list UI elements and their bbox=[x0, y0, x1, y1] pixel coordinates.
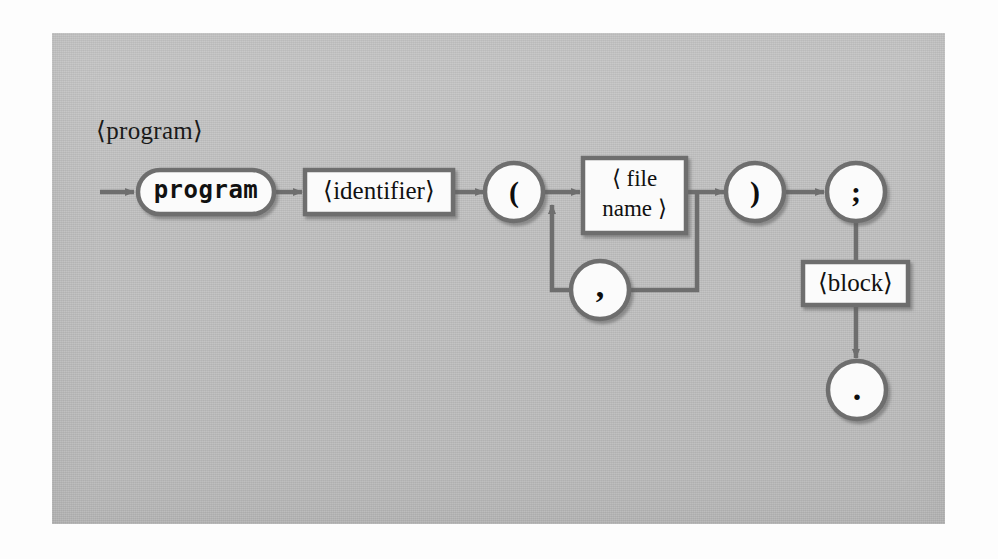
node-terminal-semicolon-label: ; bbox=[827, 176, 885, 207]
node-terminal-paren-open-label: ( bbox=[485, 176, 543, 207]
node-nonterminal-file-name-label-line2: name ⟩ bbox=[583, 196, 686, 222]
node-terminal-period-label: . bbox=[828, 371, 886, 406]
page-canvas: ⟨program⟩ program ⟨identifier⟩ ( ⟨ file … bbox=[0, 0, 998, 559]
node-terminal-program-label: program bbox=[138, 178, 274, 203]
node-nonterminal-identifier-label: ⟨identifier⟩ bbox=[305, 178, 453, 204]
node-terminal-paren-close-label: ) bbox=[726, 176, 784, 207]
node-nonterminal-file-name-label-line1: ⟨ file bbox=[583, 166, 686, 192]
rule-name-label: ⟨program⟩ bbox=[96, 116, 203, 145]
node-nonterminal-block-label: ⟨block⟩ bbox=[803, 270, 908, 296]
node-terminal-comma-label: , bbox=[571, 268, 629, 303]
